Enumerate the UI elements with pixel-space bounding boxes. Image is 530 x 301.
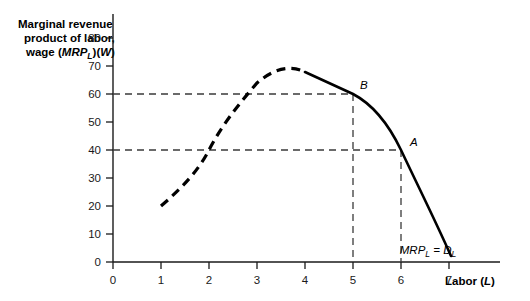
x-tick-label-1: 1	[158, 274, 164, 286]
curve-label-equals: =	[430, 244, 443, 256]
curve-label-d-sub: L	[451, 249, 456, 259]
labor-demand-chart: Marginal revenue product of labor, wage …	[0, 0, 530, 301]
x-tick-label-4: 4	[302, 274, 309, 286]
curve-label-mrp: MRP	[400, 244, 426, 256]
y-axis-title-line1: Marginal revenue	[18, 18, 113, 30]
y-axis-tick-labels: 0 10 20 30 40 50 60 70 80	[88, 32, 101, 268]
y-tick-label-20: 20	[88, 200, 101, 212]
point-label-B: B	[360, 79, 368, 91]
y-axis-title-line2: product of labor,	[24, 32, 115, 44]
y-axis-title-mrp: MRP	[62, 46, 88, 58]
y-tick-label-80: 80	[88, 32, 101, 44]
y-axis-title-line3: wage (MRPL)(W)	[25, 46, 115, 61]
point-label-A: A	[409, 136, 418, 148]
x-tick-label-5: 5	[350, 274, 356, 286]
y-axis-title-wage-prefix: wage (	[25, 46, 62, 58]
x-axis-tick-labels: 0 1 2 3 4 5 6 7	[110, 274, 452, 286]
curve-label-d: D	[443, 244, 451, 256]
x-axis-title-suffix: )	[491, 275, 495, 287]
y-tick-label-50: 50	[88, 116, 101, 128]
mrp-curve-solid-segment	[305, 72, 451, 256]
x-axis-ticks	[113, 262, 449, 269]
curve-label-mrp-dl: MRPL = DL	[400, 244, 457, 259]
mrp-curve-dashed-segment	[161, 68, 305, 206]
y-tick-label-30: 30	[88, 172, 101, 184]
y-tick-label-70: 70	[88, 60, 101, 72]
y-axis-title-paren: )(	[93, 46, 101, 58]
y-tick-label-60: 60	[88, 88, 101, 100]
x-tick-label-3: 3	[254, 274, 260, 286]
y-axis-ticks	[106, 38, 113, 262]
y-tick-label-0: 0	[95, 256, 101, 268]
x-axis-title-l: L	[484, 275, 491, 287]
x-tick-label-0: 0	[110, 274, 116, 286]
x-axis-title: Labor (L)	[445, 275, 495, 287]
x-tick-label-6: 6	[398, 274, 404, 286]
y-tick-label-10: 10	[88, 228, 101, 240]
y-tick-label-40: 40	[88, 144, 101, 156]
x-axis-title-prefix: Labor (	[445, 275, 484, 287]
figure-container: Marginal revenue product of labor, wage …	[0, 0, 530, 301]
x-tick-label-2: 2	[206, 274, 212, 286]
